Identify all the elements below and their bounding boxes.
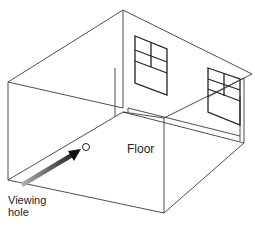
viewing-hole-label-line2: hole (8, 206, 29, 218)
window-left (135, 36, 167, 95)
viewing-hole-icon (83, 144, 90, 151)
room-edges (8, 10, 252, 213)
viewing-hole-label-line1: Viewing (8, 194, 46, 206)
window-right (208, 68, 244, 125)
floor-label: Floor (127, 143, 154, 155)
